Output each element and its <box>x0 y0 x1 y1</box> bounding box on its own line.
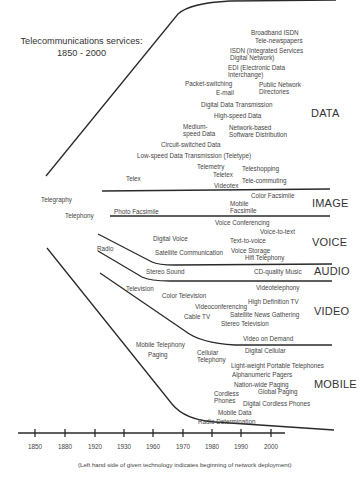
service-teletex: Teletex <box>213 171 233 178</box>
service-packet-switching: Packet-switching <box>185 80 232 87</box>
service-video-on-demand: Video on Demand <box>243 335 293 342</box>
service-alphanumeric-pagers: Alphanumeric Pagers <box>232 371 292 378</box>
category-video-label: VIDEO <box>314 305 349 317</box>
axis-tick-1880: 1880 <box>58 443 72 450</box>
service-stereo-sound: Stereo Sound <box>146 268 185 275</box>
service-mobile-facsimile: Mobile Facsimile <box>230 200 257 214</box>
service-photo-facsimile: Photo Facsimile <box>114 208 159 215</box>
service-edi: EDI (Electronic Data Interchange) <box>228 64 285 78</box>
axis-tick-1930: 1930 <box>117 443 131 450</box>
origin-telegraphy: Telegraphy <box>41 196 72 203</box>
service-voice-storage: Voice Storage <box>231 247 270 254</box>
service-network-software-distribution: Network-based Software Distribution <box>229 124 287 138</box>
service-satellite-news-gathering: Satellite News Gathering <box>230 311 299 318</box>
diagram-title: Telecommunications services: 1850 - 2000 <box>14 35 149 59</box>
title-line-2: 1850 - 2000 <box>14 47 149 59</box>
origin-radio: Radio <box>97 245 113 252</box>
service-digital-data-transmission: Digital Data Transmission <box>201 101 272 108</box>
service-public-network-directories: Public Network Directories <box>259 81 301 95</box>
data-image-divider <box>102 189 330 191</box>
service-stereo-television: Stereo Television <box>221 320 269 327</box>
service-text-to-voice: Text-to-voice <box>230 237 266 244</box>
service-tele-commuting: Tele-commuting <box>242 177 286 184</box>
service-videoconferencing: Videoconferencing <box>195 303 247 310</box>
service-cd-quality-music: CD-quality Music <box>254 268 302 275</box>
category-audio-label: AUDIO <box>314 265 350 277</box>
service-lightweight-phones: Light-weight Portable Telephones <box>231 362 324 369</box>
axis-tick-1850: 1850 <box>28 443 42 450</box>
service-cellular-telephony: Cellular Telephony <box>197 349 226 363</box>
axis-tick-1980: 1980 <box>205 443 219 450</box>
category-image-label: IMAGE <box>312 197 348 209</box>
category-voice-label: VOICE <box>312 236 347 248</box>
service-tele-newspapers: Tele-newspapers <box>255 37 303 44</box>
origin-telephony: Telephony <box>65 212 94 219</box>
service-videotelephony: Videotelephony <box>256 284 299 291</box>
service-mobile-data: Mobile Data <box>218 409 252 416</box>
service-isdn: ISDN (Integrated Services Digital Networ… <box>230 47 303 61</box>
service-telemetry: Telemetry <box>197 163 224 170</box>
service-radio-determination: Radio Determination <box>198 418 255 425</box>
service-digital-voice: Digital Voice <box>153 235 188 242</box>
service-high-speed-data: High-speed Data <box>214 112 261 119</box>
axis-tick-2000: 2000 <box>264 443 278 450</box>
axis-tick-1970: 1970 <box>176 443 190 450</box>
service-telex: Telex <box>126 175 141 182</box>
service-digital-cellular: Digital Cellular <box>245 347 286 354</box>
service-mobile-telephony: Mobile Telephony <box>136 341 185 348</box>
service-hifi-telephony: Hifi Telephony <box>245 254 284 261</box>
axis-tick-1920: 1920 <box>88 443 102 450</box>
service-voice-conferencing: Voice Conferencing <box>215 219 270 226</box>
service-color-facsimile: Color Facsimile <box>251 192 294 199</box>
service-low-speed-data: Low-speed Data Transmission (Teletype) <box>137 152 251 159</box>
service-paging: Paging <box>148 351 168 358</box>
service-high-definition-tv: High Definition TV <box>248 298 299 305</box>
service-circuit-switched-data: Circuit-switched Data <box>161 141 221 148</box>
service-cable-tv: Cable TV <box>184 313 210 320</box>
service-teleshopping: Teleshopping <box>242 165 279 172</box>
axis-footnote: (Left hand side of given technology indi… <box>78 461 291 468</box>
service-medium-speed-data: Medium- speed Data <box>183 123 215 137</box>
origin-television: Television <box>126 285 154 292</box>
service-videotex: Videotex <box>214 182 238 189</box>
telecom-timeline-diagram: Telecommunications services: 1850 - 2000… <box>0 0 361 481</box>
service-global-paging: Global Paging <box>258 388 298 395</box>
category-data-label: DATA <box>311 107 340 119</box>
service-color-television: Color Television <box>162 292 206 299</box>
axis-tick-1990: 1990 <box>234 443 248 450</box>
axis-tick-1960: 1960 <box>146 443 160 450</box>
service-digital-cordless-phones: Digital Cordless Phones <box>243 400 310 407</box>
title-line-1: Telecommunications services: <box>14 35 149 47</box>
service-cordless-phones: Cordless Phones <box>214 390 239 404</box>
service-broadband-isdn: Broadband ISDN <box>251 29 299 36</box>
service-voice-to-text: Voice-to-text <box>260 228 295 235</box>
category-mobile-label: MOBILE <box>314 378 357 390</box>
service-satellite-communication: Satellite Communication <box>155 249 223 256</box>
service-email: E-mail <box>216 89 234 96</box>
service-nationwide-paging: Nation-wide Paging <box>234 381 289 388</box>
